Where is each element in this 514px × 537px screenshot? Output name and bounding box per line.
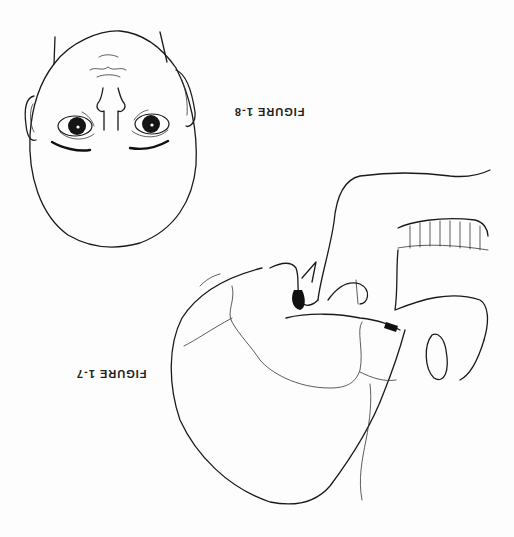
figure-caption-1-8: FIGURE 1-8	[234, 106, 305, 118]
skull-illustration	[171, 170, 490, 504]
face-illustration	[25, 31, 196, 247]
document-page: FIGURE 1-8 FIGURE 1-7	[0, 0, 514, 537]
figure-caption-1-7: FIGURE 1-7	[76, 368, 147, 380]
illustrations	[0, 0, 514, 537]
